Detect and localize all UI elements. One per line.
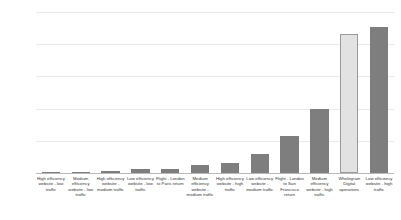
x-tick-label: High efficiency website - high traffic (215, 176, 245, 192)
axis-baseline (36, 173, 394, 174)
bar-slot (251, 12, 269, 173)
x-tick-label: Medium efficiency website - medium traff… (185, 176, 215, 197)
x-tick-label: Low efficiency website - low traffic (126, 176, 156, 192)
plot-area: 02500500075001000012500 (36, 12, 394, 173)
bar[interactable] (221, 163, 239, 173)
bar-chart: CO₂ (kg) 02500500075001000012500 High ef… (0, 0, 401, 220)
bar[interactable] (310, 109, 328, 173)
x-tick-label: Low efficiency website - medium traffic (245, 176, 275, 192)
x-tick-label: Low efficiency website - high traffic (364, 176, 394, 192)
bar-slot (131, 12, 149, 173)
bar[interactable] (42, 172, 60, 173)
bar[interactable] (131, 169, 149, 173)
x-tick-label: High efficiency website - medium traffic (96, 176, 126, 192)
x-tick-label: Flight - London to Paris return (155, 176, 185, 187)
bar-slot (72, 12, 90, 173)
x-tick-label: Medium efficiency website - low traffic (66, 176, 96, 197)
bar[interactable] (161, 169, 179, 174)
bar-slot (221, 12, 239, 173)
bar-slot (191, 12, 209, 173)
x-tick-label: High efficiency website - low traffic (36, 176, 66, 192)
bar[interactable] (370, 27, 388, 173)
bar-slot (42, 12, 60, 173)
bar-highlighted[interactable] (340, 34, 358, 173)
bars-group (36, 12, 394, 173)
bar[interactable] (101, 171, 119, 173)
bar-slot (370, 12, 388, 173)
bar-slot (280, 12, 298, 173)
bar-slot (161, 12, 179, 173)
bar[interactable] (72, 172, 90, 173)
x-axis-labels: High efficiency website - low trafficMed… (36, 176, 394, 220)
bar[interactable] (251, 154, 269, 173)
bar-slot (101, 12, 119, 173)
bar[interactable] (280, 136, 298, 173)
bar[interactable] (191, 165, 209, 173)
x-tick-label: Wholegrain Digital operations (334, 176, 364, 192)
bar-slot (340, 12, 358, 173)
bar-slot (310, 12, 328, 173)
x-tick-label: Flight - London to San Francisco return (275, 176, 305, 197)
x-tick-label: Medium efficiency website - high traffic (305, 176, 335, 197)
